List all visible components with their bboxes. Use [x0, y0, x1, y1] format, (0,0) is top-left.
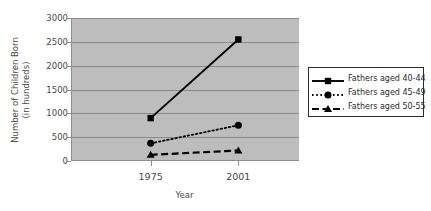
legend-item[interactable]: Fathers aged 40-44	[311, 71, 420, 85]
y-axis-tick-label: 3000	[36, 14, 68, 23]
x-axis-tick-mark	[238, 161, 239, 166]
x-axis-tick-label: 1975	[139, 171, 163, 182]
legend-item[interactable]: Fathers aged 50-55	[311, 99, 420, 113]
gridline	[72, 113, 299, 114]
gridline	[72, 137, 299, 138]
legend-item-label: Fathers aged 50-55	[345, 102, 426, 111]
y-axis-tick-mark	[66, 113, 71, 114]
y-axis-tick-label: 1000	[36, 109, 68, 118]
y-axis-tick-mark	[66, 161, 71, 162]
y-axis-tick-label: 2500	[36, 37, 68, 46]
line-chart: Number of Children Born (in hundreds) 05…	[0, 0, 431, 211]
legend-key-icon	[311, 100, 345, 112]
x-axis-tick-mark	[151, 161, 152, 166]
legend-key-icon	[311, 86, 345, 98]
y-axis-tick-mark	[66, 137, 71, 138]
y-axis-title-line-1: Number of Children Born	[10, 5, 21, 175]
y-axis-tick-label: 500	[36, 133, 68, 142]
y-axis-tick-label: 0	[36, 157, 68, 166]
legend-item-label: Fathers aged 40-44	[345, 74, 426, 83]
y-axis-title-line-2: (in hundreds)	[21, 5, 32, 175]
y-axis-tick-label: 2000	[36, 61, 68, 70]
legend-item-label: Fathers aged 45-49	[345, 88, 426, 97]
y-axis-tick-mark	[66, 90, 71, 91]
legend-item[interactable]: Fathers aged 45-49	[311, 85, 420, 99]
y-axis-tick-mark	[66, 42, 71, 43]
y-axis-tick-mark	[66, 18, 71, 19]
gridline	[72, 42, 299, 43]
data-point-marker	[325, 92, 332, 99]
data-point-marker	[325, 78, 331, 84]
y-axis-tick-mark	[66, 66, 71, 67]
y-axis-tick-label: 1500	[36, 85, 68, 94]
x-axis-line	[71, 160, 299, 161]
legend: Fathers aged 40-44Fathers aged 45-49Fath…	[308, 67, 424, 117]
gridline	[72, 66, 299, 67]
y-axis-title: Number of Children Born (in hundreds)	[10, 5, 32, 175]
x-axis-tick-label: 2001	[226, 171, 250, 182]
x-axis-title: Year	[0, 190, 369, 200]
plot-area	[71, 18, 299, 161]
legend-key-icon	[311, 72, 345, 84]
gridline	[72, 18, 299, 19]
gridline	[72, 90, 299, 91]
y-axis-tick-labels: 050010001500200025003000	[36, 0, 68, 211]
